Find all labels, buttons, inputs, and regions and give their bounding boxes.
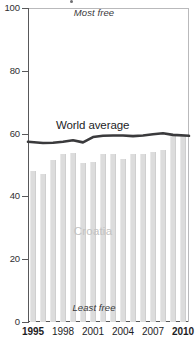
x-axis-label-1998: 1998 bbox=[46, 326, 80, 337]
y-axis-tick-0 bbox=[22, 322, 29, 323]
annotation-least-free: Least free bbox=[0, 302, 188, 313]
clipped-title-remnant bbox=[70, 0, 73, 3]
y-axis-label-40: 40 bbox=[0, 191, 20, 201]
x-axis-label-2001: 2001 bbox=[76, 326, 110, 337]
line-series-world-average bbox=[28, 8, 189, 322]
economic-freedom-chart: 020406080100 Most free Least free Croati… bbox=[0, 0, 196, 343]
y-axis-label-60: 60 bbox=[0, 129, 20, 139]
x-axis-label-2010: 2010 bbox=[166, 326, 196, 337]
annotation-croatia: Croatia bbox=[0, 225, 186, 237]
y-axis-label-80: 80 bbox=[0, 66, 20, 76]
x-axis-label-1995: 1995 bbox=[16, 326, 50, 337]
y-axis-label-20: 20 bbox=[0, 254, 20, 264]
x-axis-label-2004: 2004 bbox=[106, 326, 140, 337]
annotation-world-average: World average bbox=[56, 119, 129, 131]
x-axis-label-2007: 2007 bbox=[136, 326, 170, 337]
annotation-most-free: Most free bbox=[0, 7, 188, 18]
